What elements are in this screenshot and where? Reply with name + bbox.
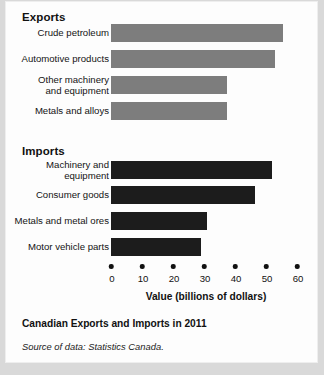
bar-export bbox=[111, 50, 275, 68]
x-axis-tick-dot bbox=[140, 264, 145, 269]
x-axis-tick-dot bbox=[202, 264, 207, 269]
bar-category-label: Metals and metal ores bbox=[5, 216, 109, 227]
bar-export bbox=[111, 102, 227, 120]
x-axis-tick-dot bbox=[109, 264, 114, 269]
bar-category-label: Machinery and equipment bbox=[5, 160, 109, 181]
x-axis-tick-label: 30 bbox=[200, 273, 211, 284]
x-axis-tick-label: 0 bbox=[109, 273, 114, 284]
x-axis-tick-dot bbox=[264, 264, 269, 269]
figure-card: Exports Imports Crude petroleumAutomotiv… bbox=[6, 2, 317, 362]
bar-row: Consumer goods bbox=[6, 186, 317, 204]
bar-row: Other machinery and equipment bbox=[6, 76, 317, 94]
x-axis-tick-label: 10 bbox=[138, 273, 149, 284]
bar-row: Motor vehicle parts bbox=[6, 238, 317, 256]
bar-category-label: Crude petroleum bbox=[5, 28, 109, 39]
bar-category-label: Metals and alloys bbox=[5, 106, 109, 117]
bar-category-label: Other machinery and equipment bbox=[5, 75, 109, 96]
figure-source-note: Source of data: Statistics Canada. bbox=[22, 341, 164, 352]
bar-row: Machinery and equipment bbox=[6, 161, 317, 179]
bar-category-label: Automotive products bbox=[5, 54, 109, 65]
bar-export bbox=[111, 24, 283, 42]
bar-export bbox=[111, 76, 227, 94]
x-axis-tick-dot bbox=[171, 264, 176, 269]
x-axis-tick-label: 50 bbox=[262, 273, 273, 284]
bar-row: Metals and alloys bbox=[6, 102, 317, 120]
x-axis-tick-dot bbox=[233, 264, 238, 269]
bar-category-label: Motor vehicle parts bbox=[5, 242, 109, 253]
bar-import bbox=[111, 186, 255, 204]
x-axis-tick-dot bbox=[295, 264, 300, 269]
figure-caption-title: Canadian Exports and Imports in 2011 bbox=[22, 318, 207, 329]
bar-category-label: Consumer goods bbox=[5, 190, 109, 201]
bar-chart-plot-area: Crude petroleumAutomotive productsOther … bbox=[6, 2, 317, 362]
bar-import bbox=[111, 161, 272, 179]
bar-row: Crude petroleum bbox=[6, 24, 317, 42]
x-axis-tick-label: 40 bbox=[231, 273, 242, 284]
bar-import bbox=[111, 238, 201, 256]
bar-import bbox=[111, 212, 207, 230]
x-axis-tick-label: 20 bbox=[169, 273, 180, 284]
x-axis: 0102030405060 bbox=[6, 264, 317, 290]
x-axis-title: Value (billions of dollars) bbox=[111, 291, 301, 302]
bar-row: Metals and metal ores bbox=[6, 212, 317, 230]
bar-row: Automotive products bbox=[6, 50, 317, 68]
x-axis-tick-label: 60 bbox=[293, 273, 304, 284]
figure-canvas: Exports Imports Crude petroleumAutomotiv… bbox=[6, 2, 317, 362]
